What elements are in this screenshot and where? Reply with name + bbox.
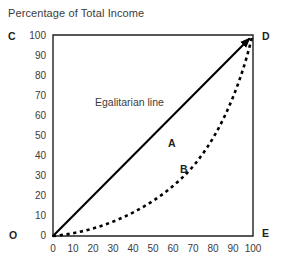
- egalitarian-line-annotation: Egalitarian line: [95, 96, 164, 108]
- region-label-a: A: [168, 138, 176, 149]
- region-label-b: B: [180, 164, 188, 175]
- egalitarian-line: [53, 39, 249, 236]
- plot-area: [0, 0, 286, 271]
- lorenz-curve-chart: Percentage of Total Income C D O E 100 9…: [0, 0, 286, 271]
